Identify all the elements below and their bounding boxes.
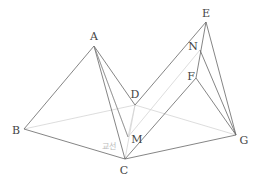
edge-AD	[94, 46, 135, 105]
label-A: A	[89, 30, 99, 43]
edge-DE	[135, 22, 206, 105]
intersection-line-annotation: 교선	[102, 142, 116, 151]
edge-FG	[196, 78, 236, 135]
edge-AM-front	[94, 46, 128, 137]
label-M: M	[131, 133, 142, 146]
edge-NG	[200, 50, 236, 135]
edge-EG	[206, 22, 236, 135]
point-labels: A B C D E N F M G 교선	[12, 7, 248, 177]
edge-AB	[24, 46, 94, 129]
label-C: C	[120, 164, 128, 177]
edge-BD	[24, 105, 135, 129]
label-F: F	[187, 70, 195, 83]
label-D: D	[131, 88, 140, 101]
geometry-diagram: A B C D E N F M G 교선	[0, 0, 253, 183]
label-B: B	[12, 124, 20, 137]
label-N: N	[188, 40, 198, 53]
label-E: E	[202, 7, 210, 20]
label-G: G	[240, 134, 249, 147]
